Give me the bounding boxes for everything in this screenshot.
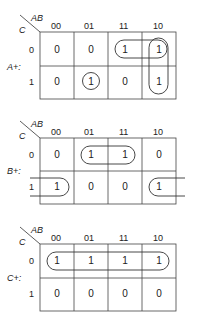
- cell: 0: [74, 44, 108, 56]
- cell: 1: [40, 255, 74, 267]
- col-label: 00: [51, 21, 61, 31]
- kmap-c-plus: AB C 00 01 11 10 0 1 C+: 1 1 1 1 0 0 0 0: [0, 212, 197, 320]
- cell: 1: [142, 76, 176, 88]
- cell: 0: [108, 76, 142, 88]
- row-var-label: C: [19, 131, 26, 141]
- cell: 1: [108, 44, 142, 56]
- col-label: 01: [84, 127, 94, 137]
- kmap-a-plus: AB C 00 01 11 10 0 1 A+: 0 0 1 1 0 1 0 1: [0, 0, 197, 108]
- cell: 1: [142, 181, 176, 193]
- col-label: 01: [84, 233, 94, 243]
- row-label: 0: [29, 45, 34, 55]
- col-label: 11: [119, 127, 128, 137]
- cell: 1: [40, 181, 74, 193]
- cell: 0: [108, 288, 142, 300]
- cell: 0: [142, 288, 176, 300]
- kmap-b-plus: AB C 00 01 11 10 0 1 B+: 0 1 1 0 1 0 0 1: [0, 106, 197, 214]
- cell: 0: [108, 181, 142, 193]
- cell: 1: [142, 44, 176, 56]
- cell: 1: [108, 149, 142, 161]
- cell: 1: [142, 255, 176, 267]
- cell: 1: [74, 149, 108, 161]
- col-label: 11: [119, 233, 128, 243]
- col-label: 10: [153, 233, 163, 243]
- cell: 0: [74, 181, 108, 193]
- map-name: C+:: [7, 273, 21, 283]
- row-label: 1: [29, 77, 34, 87]
- cell: 0: [40, 44, 74, 56]
- col-var-label: AB: [31, 119, 43, 129]
- col-label: 10: [153, 127, 163, 137]
- cell: 0: [142, 149, 176, 161]
- row-label: 0: [29, 256, 34, 266]
- row-label: 1: [29, 289, 34, 299]
- row-var-label: C: [19, 25, 26, 35]
- map-name: A+:: [7, 62, 21, 72]
- row-label: 1: [29, 182, 34, 192]
- col-var-label: AB: [31, 13, 43, 23]
- cell: 1: [74, 255, 108, 267]
- cell: 1: [74, 76, 108, 88]
- col-label: 00: [51, 127, 61, 137]
- cell: 1: [108, 255, 142, 267]
- row-label: 0: [29, 150, 34, 160]
- map-name: B+:: [7, 166, 21, 176]
- cell: 0: [40, 149, 74, 161]
- cell: 0: [40, 288, 74, 300]
- col-label: 00: [51, 233, 61, 243]
- col-var-label: AB: [31, 225, 43, 235]
- col-label: 01: [84, 21, 94, 31]
- col-label: 11: [119, 21, 128, 31]
- row-var-label: C: [19, 237, 26, 247]
- col-label: 10: [153, 21, 163, 31]
- cell: 0: [40, 76, 74, 88]
- cell: 0: [74, 288, 108, 300]
